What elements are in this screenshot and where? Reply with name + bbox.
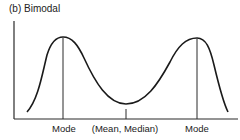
bimodal-plot — [0, 0, 240, 140]
mode-right-label: Mode — [185, 123, 209, 134]
mode-left-label: Mode — [52, 123, 76, 134]
mean-median-label: (Mean, Median) — [92, 123, 159, 134]
distribution-curve — [27, 37, 228, 112]
